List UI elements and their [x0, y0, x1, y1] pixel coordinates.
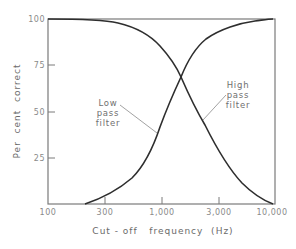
y-tick-label-100: 100	[28, 15, 45, 24]
x-axis-title: Cut - off frequency (Hz)	[92, 226, 233, 236]
x-tick-label-10000: 10,000	[257, 208, 288, 217]
x-tick-label-1000: 1,000	[149, 208, 174, 217]
x-tick-label-100: 100	[40, 208, 57, 217]
high-pass-leader-line	[203, 95, 226, 120]
low-pass-label-line1: Low	[98, 98, 117, 108]
falling-curve	[48, 19, 273, 204]
y-tick-label-25: 25	[34, 154, 45, 163]
y-axis	[48, 65, 55, 158]
x-tick-label-3000: 3,000	[206, 208, 231, 217]
high-pass-label-line1: High	[227, 80, 250, 90]
x-tick-label-300: 300	[97, 208, 114, 217]
low-pass-leader-line	[120, 105, 157, 133]
high-pass-label-line2: pass	[227, 90, 250, 100]
low-pass-label-line3: filter	[96, 118, 121, 128]
chart: 100 75 50 25 100 300 1,000 3,000 10,000 …	[0, 0, 296, 249]
low-pass-label-line2: pass	[97, 108, 120, 118]
y-tick-label-75: 75	[34, 61, 45, 70]
high-pass-annotation: High pass filter	[203, 80, 250, 120]
x-axis	[105, 197, 219, 204]
high-pass-label-line3: filter	[226, 100, 251, 110]
y-axis-title: Per cent correct	[12, 63, 22, 158]
low-pass-annotation: Low pass filter	[96, 98, 157, 133]
y-tick-label-50: 50	[34, 108, 45, 117]
